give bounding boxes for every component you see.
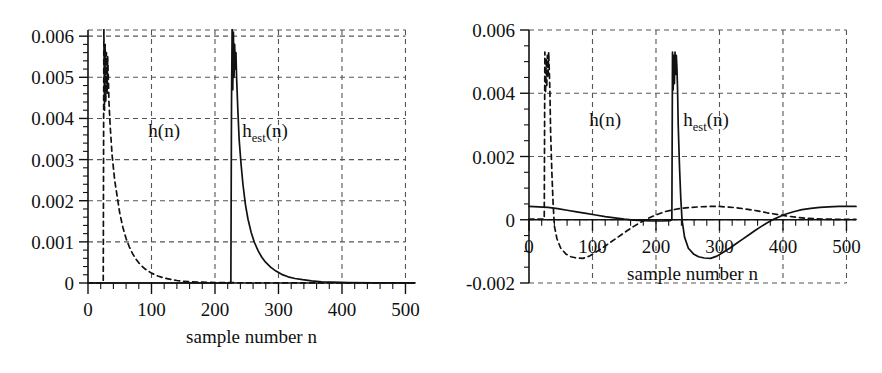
x-ticks [529, 220, 846, 231]
x-tick-label: 300 [705, 236, 734, 257]
gridlines [88, 30, 405, 283]
y-tick-label: 0.002 [472, 147, 515, 168]
x-axis-title: sample number n [627, 263, 758, 284]
series-path-h [529, 52, 856, 258]
series-path-h [88, 28, 415, 283]
y-tick-label: 0.005 [31, 67, 74, 88]
x-tick-label: 0 [524, 236, 534, 257]
left-plot-svg: 00.0010.0020.0030.0040.0050.006010020030… [0, 0, 441, 373]
x-tick-label: 300 [264, 299, 293, 320]
y-tick-label: 0.004 [472, 83, 515, 104]
y-tick-label: 0 [506, 210, 516, 231]
curve-annotation: hest(n) [683, 109, 729, 134]
x-ticks [88, 283, 405, 294]
x-tick-label: 500 [832, 236, 861, 257]
series-path-hest [529, 52, 856, 258]
x-tick-label: 200 [201, 299, 230, 320]
x-tick-label: 400 [769, 236, 798, 257]
x-tick-label: 0 [83, 299, 93, 320]
y-tick-label: 0.006 [31, 26, 74, 47]
x-tick-label: 200 [642, 236, 671, 257]
curve-annotation: h(n) [589, 109, 621, 131]
y-ticks [79, 36, 88, 283]
data-series-group [88, 28, 415, 283]
series-path-hest [88, 28, 415, 283]
y-tick-label: 0.001 [31, 232, 74, 253]
x-tick-label: 500 [391, 299, 420, 320]
y-tick-label: 0 [65, 273, 75, 294]
y-tick-label: 0.002 [31, 191, 74, 212]
x-tick-label: 400 [328, 299, 357, 320]
curve-annotation: h(n) [148, 120, 180, 142]
figure-container: 00.0010.0020.0030.0040.0050.006010020030… [0, 0, 882, 373]
axes [88, 30, 415, 283]
data-series-group [529, 52, 856, 258]
y-tick-label: -0.002 [466, 273, 515, 294]
y-tick-label: 0.003 [31, 150, 74, 171]
x-tick-label: 100 [137, 299, 166, 320]
curve-annotation: hest(n) [242, 120, 288, 145]
y-tick-label: 0.004 [31, 108, 74, 129]
chart-panel-left: 00.0010.0020.0030.0040.0050.006010020030… [0, 0, 441, 373]
chart-panel-right: -0.00200.0020.0040.0060100200300400500sa… [441, 0, 882, 373]
y-tick-label: 0.006 [472, 20, 515, 41]
x-tick-label: 100 [578, 236, 607, 257]
right-plot-svg: -0.00200.0020.0040.0060100200300400500sa… [441, 0, 882, 373]
x-axis-title: sample number n [186, 326, 317, 347]
